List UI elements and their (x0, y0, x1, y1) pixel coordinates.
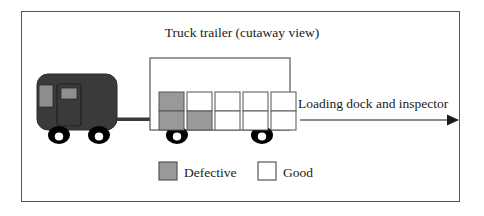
figure-container: Truck trailer (cutaway view) Loading doc… (0, 0, 484, 216)
truck-cab (37, 74, 117, 130)
cargo-box (271, 92, 296, 111)
cargo-box (187, 111, 212, 130)
legend-label-good: Good (283, 166, 313, 180)
cargo-box (271, 111, 296, 130)
trailer-hitch-connector (113, 118, 152, 122)
cab-windshield (39, 85, 53, 107)
cargo-box (243, 111, 268, 130)
legend-swatch-good (258, 162, 276, 180)
cargo-box (187, 92, 212, 111)
cargo-box (159, 111, 184, 130)
legend-label-defective: Defective (184, 166, 236, 180)
cab-door-window (61, 88, 77, 99)
legend-swatch-defective (159, 162, 177, 180)
loading-dock-arrow (300, 115, 459, 126)
cargo-box (215, 111, 240, 130)
figure-title: Truck trailer (cutaway view) (0, 26, 484, 40)
cargo-box (243, 92, 268, 111)
cargo-grid (159, 92, 296, 130)
loading-dock-label: Loading dock and inspector (298, 97, 448, 111)
cargo-box (159, 92, 184, 111)
cargo-box (215, 92, 240, 111)
